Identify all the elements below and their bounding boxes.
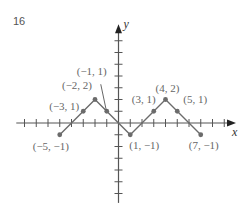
axes [16, 24, 236, 203]
x-axis-label: x [231, 125, 238, 139]
point-label: (3, 1) [132, 93, 156, 106]
y-axis-label: y [123, 17, 130, 31]
coordinate-plot: (−5, −1)(−3, 1)(−2, 2)(−1, 1)(1, −1)(3, … [0, 0, 252, 205]
graph-point [151, 109, 156, 114]
point-label: (5, 1) [183, 93, 207, 106]
graph-point [198, 132, 203, 137]
point-label: (−5, −1) [33, 140, 70, 153]
graph-point [104, 109, 109, 114]
graph-lines [60, 100, 201, 135]
graph-point [128, 132, 133, 137]
point-label: (−3, 1) [49, 100, 79, 113]
y-axis-arrow-icon [115, 24, 122, 33]
graph-point [175, 109, 180, 114]
graph-point [163, 97, 168, 102]
graph-point [57, 132, 62, 137]
graph-point [81, 109, 86, 114]
graph-point [93, 97, 98, 102]
point-label: (7, −1) [189, 139, 219, 152]
point-label: (1, −1) [129, 139, 159, 152]
point-label: (−2, 2) [62, 79, 92, 92]
ticks [25, 41, 225, 194]
point-labels: (−5, −1)(−3, 1)(−2, 2)(−1, 1)(1, −1)(3, … [33, 65, 219, 153]
graph-polyline [60, 100, 201, 135]
point-label: (4, 2) [156, 82, 180, 95]
point-label: (−1, 1) [77, 65, 107, 78]
